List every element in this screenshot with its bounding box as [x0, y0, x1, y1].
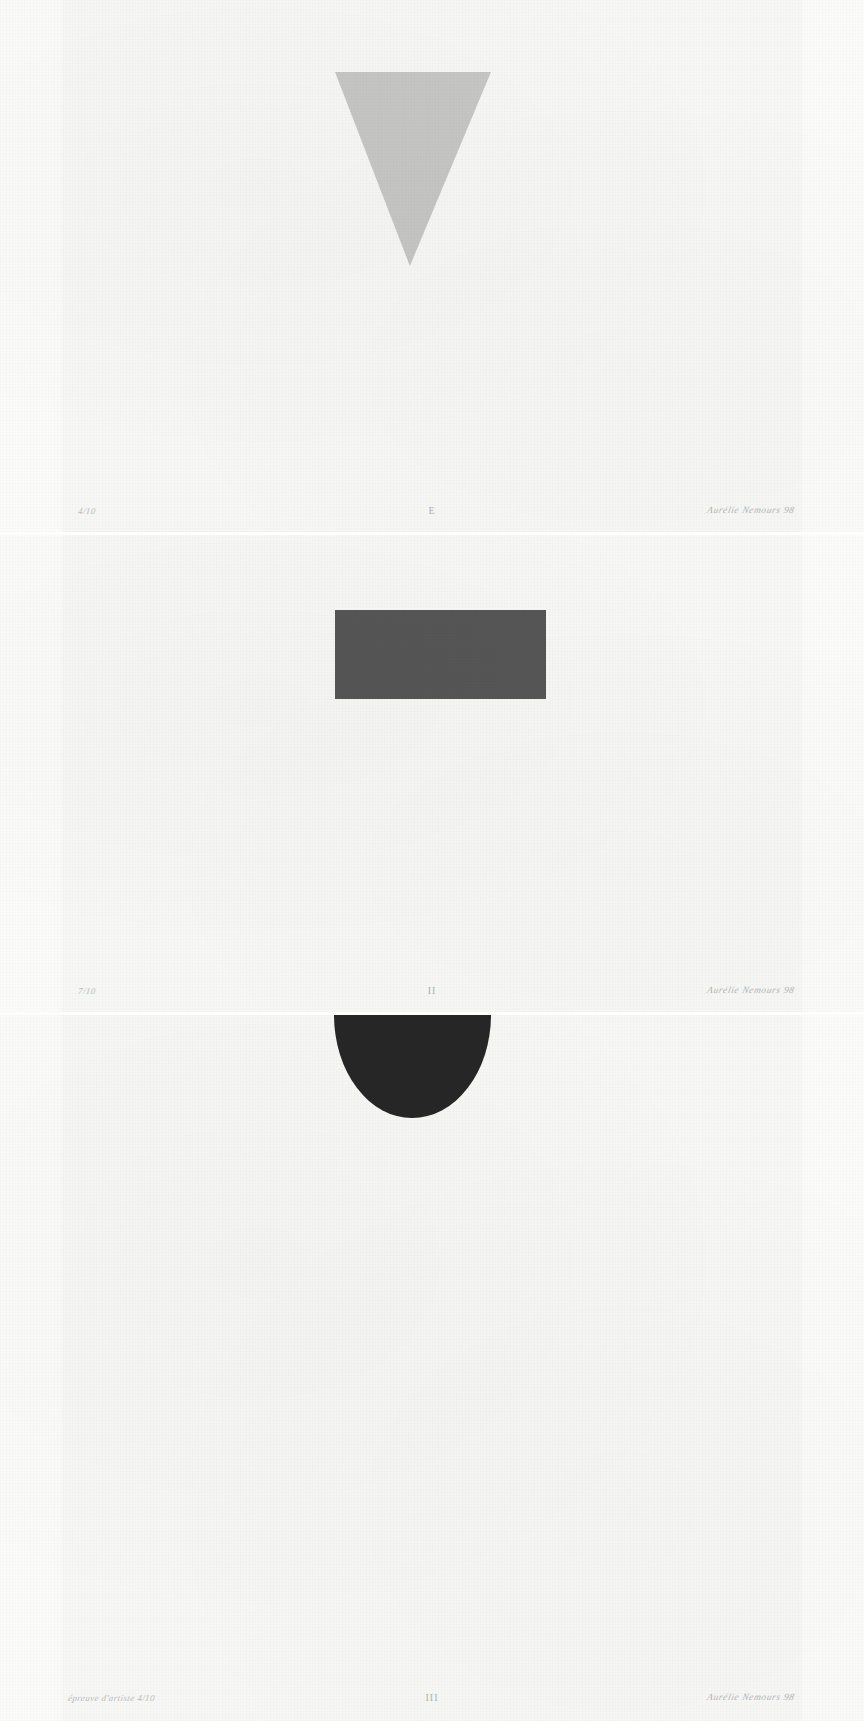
sheet-2-annotation-row: 7/10 II Aurélie Nemours 98	[0, 980, 864, 1002]
sheet-1-annotation-row: 4/10 E Aurélie Nemours 98	[0, 500, 864, 522]
print-sheet-2: 7/10 II Aurélie Nemours 98	[0, 535, 864, 1012]
sheet-3-left-margin	[0, 1015, 62, 1721]
artist-signature: Aurélie Nemours 98	[706, 1693, 795, 1703]
sheet-2-left-margin	[0, 535, 62, 1012]
sheet-2-right-margin	[802, 535, 864, 1012]
inverted-triangle-shape	[335, 72, 491, 266]
print-sheet-1: 4/10 E Aurélie Nemours 98	[0, 0, 864, 532]
sheet-1-right-margin	[802, 0, 864, 532]
sheet-3-right-margin	[802, 1015, 864, 1721]
sheet-1-left-margin	[0, 0, 62, 532]
half-disc-shape	[334, 1015, 491, 1118]
rectangle-shape	[335, 610, 546, 699]
artist-signature: Aurélie Nemours 98	[706, 986, 795, 996]
artwork-triptych: 4/10 E Aurélie Nemours 98 7/10 II Auréli…	[0, 0, 864, 1721]
artist-signature: Aurélie Nemours 98	[706, 506, 795, 516]
print-sheet-3: épreuve d'artiste 4/10 III Aurélie Nemou…	[0, 1015, 864, 1721]
sheet-3-annotation-row: épreuve d'artiste 4/10 III Aurélie Nemou…	[0, 1687, 864, 1709]
